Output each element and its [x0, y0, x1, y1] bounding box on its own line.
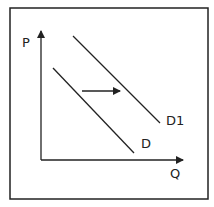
- y-axis-label: P: [22, 35, 30, 50]
- demand-curve-d: [53, 68, 134, 153]
- x-axis-label: Q: [170, 166, 180, 181]
- demand-curve-d1: [73, 36, 160, 123]
- curve-label-d: D: [141, 136, 151, 151]
- curve-label-d1: D1: [166, 113, 184, 128]
- demand-shift-diagram: P Q D D1: [0, 0, 214, 207]
